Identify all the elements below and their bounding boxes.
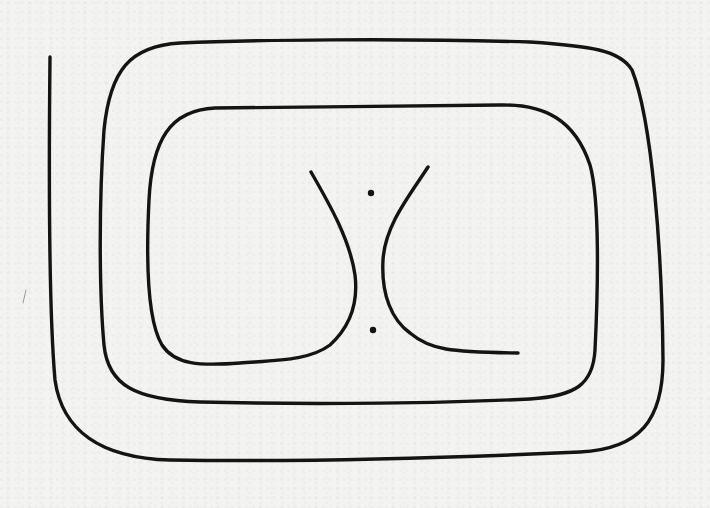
upper-point-marker <box>368 190 374 196</box>
spiral-curve <box>49 40 663 461</box>
lower-point-marker <box>370 327 376 333</box>
hyperbola-right-branch <box>383 167 518 353</box>
diagram-svg <box>0 0 710 508</box>
stray-pencil-mark <box>23 290 26 303</box>
diagram-canvas <box>0 0 710 508</box>
